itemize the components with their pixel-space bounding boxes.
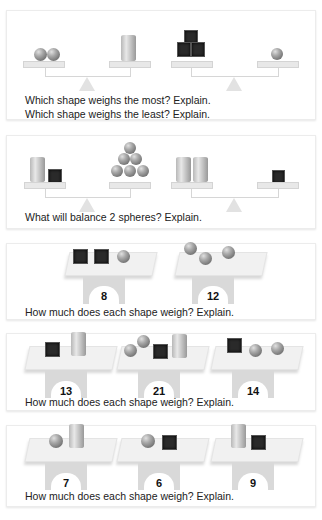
sphere-icon (141, 434, 155, 448)
scale-platform (174, 252, 267, 276)
cube-icon (153, 344, 168, 359)
problem-2-panel: What will balance 2 spheres? Explain. (6, 135, 316, 229)
sphere-icon (271, 342, 284, 355)
cube-icon (177, 42, 191, 57)
problem-3-panel: 8 12 How much does each shape weigh? Exp… (6, 243, 316, 320)
right-pan (109, 61, 151, 68)
cylinder-icon (172, 334, 187, 358)
sphere-icon (111, 165, 123, 177)
sphere-icon (184, 242, 197, 255)
cylinder-icon (231, 424, 246, 448)
sphere-icon (118, 153, 130, 165)
cylinder-icon (121, 35, 136, 61)
problem-1-panel: Which shape weighs the most? Explain. Wh… (6, 10, 316, 120)
sphere-icon (130, 153, 142, 165)
right-pan (109, 182, 151, 189)
cube-icon (191, 42, 205, 57)
question-text: What will balance 2 spheres? Explain. (25, 211, 202, 224)
sphere-icon (124, 165, 136, 177)
fulcrum-icon (79, 77, 95, 91)
sphere-icon (249, 344, 262, 357)
fulcrum-icon (226, 77, 242, 91)
question-text: How much does each shape weigh? Explain. (25, 490, 234, 503)
cube-icon (162, 435, 177, 450)
cylinder-icon (30, 157, 45, 182)
sphere-icon (199, 252, 212, 265)
left-pan (23, 61, 65, 68)
sphere-icon (271, 48, 283, 60)
cylinder-icon (193, 157, 208, 182)
sphere-icon (34, 48, 47, 61)
sphere-icon (137, 335, 150, 348)
cube-icon (94, 249, 109, 264)
sphere-icon (117, 250, 130, 263)
question-text: Which shape weighs the most? Explain. (25, 94, 211, 107)
question-text: Which shape weighs the least? Explain. (25, 108, 210, 121)
beam (191, 68, 279, 77)
cube-icon (251, 435, 266, 450)
left-pan (24, 182, 66, 189)
cube-icon (227, 338, 242, 353)
right-pan (257, 182, 299, 189)
sphere-icon (47, 48, 60, 61)
left-pan (171, 182, 213, 189)
right-pan (257, 61, 299, 68)
cube-icon (45, 342, 60, 357)
cylinder-icon (176, 157, 191, 182)
problem-5-panel: 7 6 9 How much does each shape weigh? Ex… (6, 425, 316, 507)
beam (45, 189, 131, 198)
question-text: How much does each shape weigh? Explain. (25, 396, 234, 409)
fulcrum-icon (226, 198, 242, 212)
sphere-icon (137, 165, 149, 177)
sphere-icon (49, 434, 63, 448)
sphere-icon (124, 344, 137, 357)
question-text: How much does each shape weigh? Explain. (25, 306, 234, 319)
beam (191, 189, 279, 198)
left-pan (171, 61, 213, 68)
fulcrum-icon (79, 198, 95, 212)
problem-4-panel: 13 21 14 How much does each shape weigh?… (6, 333, 316, 411)
cube-icon (73, 249, 88, 264)
cylinder-icon (71, 332, 86, 356)
sphere-icon (222, 246, 235, 259)
cylinder-icon (69, 424, 84, 448)
beam (45, 68, 131, 77)
